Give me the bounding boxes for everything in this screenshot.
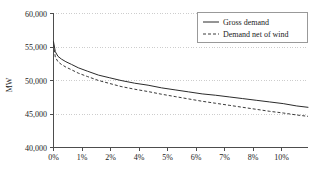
- line-chart: 60,000 55,000 50,000 45,000 40,000 MW 0%…: [0, 0, 311, 179]
- y-tick-label-45000: 45,000: [25, 110, 47, 119]
- y-axis: 60,000 55,000 50,000 45,000 40,000 MW: [5, 10, 54, 153]
- x-tick-label-2: 2%: [105, 153, 116, 162]
- legend: Gross demand Demand net of wind: [198, 13, 308, 43]
- x-tick-label-10: 10%: [274, 153, 289, 162]
- x-tick-label-4: 4%: [134, 153, 145, 162]
- x-tick-label-6: 6%: [191, 153, 202, 162]
- x-tick-label-5: 5%: [162, 153, 173, 162]
- x-axis: 0% 1% 2% 4% 5% 6% 7% 8% 10%: [48, 148, 308, 163]
- x-tick-label-0: 0%: [48, 153, 59, 162]
- chart-container: 60,000 55,000 50,000 45,000 40,000 MW 0%…: [0, 0, 311, 179]
- data-series: [54, 42, 309, 117]
- x-tick-label-8: 8%: [248, 153, 259, 162]
- y-tick-label-40000: 40,000: [25, 144, 47, 153]
- y-axis-title: MW: [5, 77, 14, 92]
- y-tick-label-55000: 55,000: [25, 43, 47, 52]
- legend-label-demand-net-of-wind: Demand net of wind: [223, 30, 289, 39]
- y-tick-label-60000: 60,000: [25, 10, 47, 19]
- x-tick-label-1: 1%: [77, 153, 88, 162]
- y-tick-label-50000: 50,000: [25, 77, 47, 86]
- legend-label-gross-demand: Gross demand: [223, 18, 269, 27]
- x-tick-label-7: 7%: [219, 153, 230, 162]
